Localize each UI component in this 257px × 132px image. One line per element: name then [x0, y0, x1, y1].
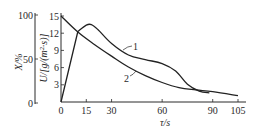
series-2-line [61, 16, 238, 96]
y-tick-label: 6 [54, 62, 59, 73]
series-layer [61, 16, 238, 102]
secondary-y-tick-label: 0 [28, 98, 33, 109]
secondary-y-axis: 050100 X/% [13, 10, 38, 109]
y-tick-label: 9 [54, 45, 59, 56]
x-tick-label: 60 [157, 105, 167, 116]
y-axis-label: U/[g/(m²·s)] [38, 33, 50, 82]
curve-label-2-group: 2 [124, 71, 136, 84]
y-tick-label: 15 [49, 11, 59, 22]
curve-label-2: 2 [124, 73, 129, 84]
x-tick-label: 0 [59, 105, 64, 116]
secondary-y-tick-label: 100 [18, 10, 33, 21]
secondary-y-tick-label: 50 [23, 54, 33, 65]
curve-label-1-group: 1 [123, 41, 138, 52]
x-axis: 015306090105 τ/s [59, 99, 247, 128]
x-tick-label: 30 [107, 105, 117, 116]
x-tick-label: 90 [208, 105, 218, 116]
secondary-y-axis-label: X/% [13, 53, 24, 71]
y-tick-label: 3 [54, 79, 59, 90]
curve-label-1-leader [123, 46, 132, 50]
y-tick-label: 12 [49, 28, 59, 39]
y-axis: 3691215 U/[g/(m²·s)] [38, 11, 64, 103]
x-tick-label: 105 [231, 105, 246, 116]
curve-label-1: 1 [133, 41, 138, 52]
x-axis-label: τ/s [160, 117, 170, 128]
x-tick-label: 15 [81, 105, 91, 116]
chart: 050100 X/% 3691215 U/[g/(m²·s)] 01530609… [0, 0, 257, 132]
curve-label-2-leader [130, 71, 136, 76]
